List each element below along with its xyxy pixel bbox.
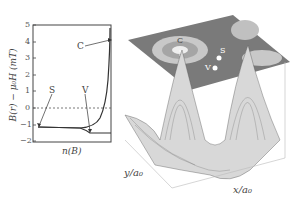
- saddle-marker: [217, 56, 222, 61]
- ytick: 4: [25, 37, 30, 46]
- vortex-min-marker: [213, 66, 218, 71]
- ytick: −2: [20, 136, 32, 145]
- right-ylabel: y/a₀: [124, 167, 143, 178]
- annotation-s: S: [49, 85, 55, 95]
- figure-canvas: [0, 0, 305, 206]
- lower-curve: [38, 127, 111, 133]
- surface-annotation-v: V: [205, 63, 211, 72]
- ytick: 1: [25, 86, 30, 95]
- left-xlabel: n(B): [62, 146, 81, 156]
- ytick: −1: [20, 120, 32, 129]
- annotation-v: V: [82, 85, 89, 95]
- ytick: 0: [25, 103, 30, 112]
- ytick: 3: [25, 53, 30, 62]
- ytick: 5: [25, 20, 30, 29]
- ytick: 2: [25, 70, 30, 79]
- annotation-c: C: [77, 41, 84, 51]
- surface-annotation-c: C: [177, 36, 183, 45]
- surface-annotation-s: S: [220, 46, 225, 55]
- field-curve: [38, 28, 110, 128]
- right-xlabel: x/a₀: [233, 184, 252, 195]
- left-ylabel: B(r) − μ₀H (mT): [8, 40, 18, 130]
